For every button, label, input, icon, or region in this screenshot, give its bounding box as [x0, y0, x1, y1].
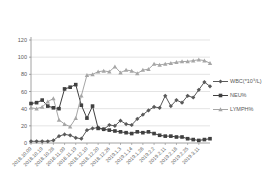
line-chart: 0204060801001202018.10.092018.10.192018.…: [0, 0, 274, 181]
triangle-marker-icon: [51, 96, 55, 100]
diamond-marker-icon: [163, 94, 167, 98]
legend-marker-wbc-diamond-icon: [213, 78, 228, 85]
legend-label-wbc: WBC(*10⁹/L): [230, 79, 262, 85]
square-marker-icon: [124, 131, 128, 135]
y-tick-label-120: 120: [18, 37, 27, 43]
axes: [31, 37, 210, 143]
square-marker-icon: [91, 104, 95, 108]
diamond-marker-icon: [90, 126, 94, 130]
y-tick-label-20: 20: [21, 123, 27, 129]
square-marker-icon: [135, 130, 139, 134]
gridlines: [31, 40, 210, 126]
square-marker-icon: [102, 127, 106, 131]
triangle-marker-icon: [74, 116, 78, 120]
series-lymph: [29, 58, 212, 129]
y-tick-label-80: 80: [21, 71, 27, 77]
y-tick-label-60: 60: [21, 89, 27, 95]
square-marker-icon: [147, 130, 151, 134]
square-marker-icon: [197, 139, 201, 143]
square-marker-icon: [52, 106, 56, 110]
square-marker-icon: [46, 104, 50, 108]
diamond-marker-icon: [218, 79, 222, 83]
square-marker-icon: [108, 128, 112, 132]
square-marker-icon: [40, 98, 44, 102]
square-marker-icon: [163, 134, 167, 138]
square-marker-icon: [203, 138, 207, 142]
square-marker-icon: [180, 135, 184, 139]
square-marker-icon: [63, 87, 67, 91]
square-marker-icon: [29, 102, 33, 106]
square-marker-icon: [141, 131, 145, 135]
legend-marker-neu-square-icon: [213, 92, 228, 99]
square-marker-icon: [208, 137, 212, 141]
legend-label-lymph: LYMPH%: [230, 107, 253, 113]
legend-marker-lymph-triangle-icon: [213, 106, 228, 113]
chart-legend: WBC(*10⁹/L) NEU% LYMPH%: [213, 78, 262, 113]
diamond-marker-icon: [68, 133, 72, 137]
square-marker-icon: [175, 135, 179, 139]
square-marker-icon: [96, 127, 100, 131]
square-marker-icon: [186, 137, 190, 141]
diamond-marker-icon: [62, 132, 66, 136]
square-marker-icon: [113, 129, 117, 133]
diamond-marker-icon: [74, 136, 78, 140]
series-line-lymph: [31, 60, 210, 127]
square-marker-icon: [68, 85, 72, 89]
square-marker-icon: [169, 134, 173, 138]
legend-item-lymph: LYMPH%: [213, 106, 262, 113]
square-marker-icon: [119, 130, 123, 134]
y-tick-label-40: 40: [21, 106, 27, 112]
square-marker-icon: [219, 94, 223, 98]
square-marker-icon: [80, 103, 84, 107]
legend-item-neu: NEU%: [213, 92, 262, 99]
square-marker-icon: [130, 132, 134, 136]
legend-item-wbc: WBC(*10⁹/L): [213, 78, 262, 85]
square-marker-icon: [74, 83, 78, 87]
y-tick-label-0: 0: [24, 140, 27, 146]
square-marker-icon: [152, 132, 156, 136]
x-axis-labels: 2018.10.092018.10.192018.10.282018.11.09…: [11, 143, 201, 167]
y-axis-labels: 020406080100120: [18, 37, 31, 146]
square-marker-icon: [85, 116, 89, 120]
triangle-marker-icon: [57, 118, 61, 122]
square-marker-icon: [35, 101, 39, 105]
y-tick-label-100: 100: [18, 54, 27, 60]
triangle-marker-icon: [113, 64, 117, 68]
square-marker-icon: [191, 138, 195, 142]
triangle-marker-icon: [79, 94, 83, 98]
triangle-marker-icon: [46, 100, 50, 104]
diamond-marker-icon: [158, 106, 162, 110]
square-marker-icon: [57, 107, 61, 111]
legend-label-neu: NEU%: [230, 93, 247, 99]
square-marker-icon: [158, 133, 162, 137]
